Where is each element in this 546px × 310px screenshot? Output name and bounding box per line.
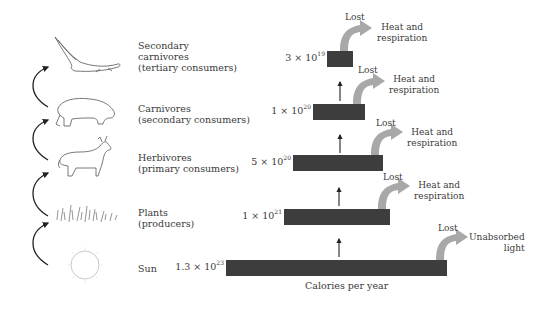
lost-label-3: Lost [383,172,403,183]
loss-line: Heat and [389,74,439,85]
value-exponent: 19 [317,50,325,57]
level-label-secondary-carnivores: Secondary carnivores (tertiary consumers… [138,40,237,73]
value-label-0: 3 × 1019 [285,52,325,63]
label-line: Secondary [138,40,237,51]
loss-destination-2: Heat and respiration [407,127,457,149]
value-exponent: 23 [216,259,224,266]
lion-icon [56,98,114,126]
value-base: 5 × 10 [251,156,283,167]
label-line: Carnivores [138,103,250,114]
lost-label-1: Lost [358,65,378,76]
value-label-1: 1 × 1020 [271,105,311,116]
label-line: (producers) [138,218,194,229]
value-label-2: 5 × 1020 [251,156,291,167]
loss-line: respiration [389,85,439,96]
value-label-3: 1 × 1021 [242,210,282,221]
value-label-4: 1.3 × 1023 [175,261,224,272]
lost-label-4: Lost [438,223,458,234]
label-line: Herbivores [138,152,239,163]
lost-label-0: Lost [345,12,365,23]
value-base: 3 × 10 [285,52,317,63]
energy-bar-sun [226,260,447,276]
loss-line: Unabsorbed [469,232,525,243]
level-label-herbivores: Herbivores (primary consumers) [138,152,239,174]
value-exponent: 21 [274,208,282,215]
label-line: (tertiary consumers) [138,62,237,73]
grass-icon [57,205,117,222]
loss-line: Heat and [377,22,427,33]
label-line: Plants [138,207,194,218]
loss-line: light [469,243,525,254]
lost-label-2: Lost [376,118,396,129]
value-base: 1 × 10 [242,210,274,221]
level-label-plants: Plants (producers) [138,207,194,229]
label-line: (primary consumers) [138,163,239,174]
loss-line: respiration [407,138,457,149]
axis-label: Calories per year [305,280,388,291]
loss-line: respiration [414,191,464,202]
label-line: Sun [138,263,157,274]
value-exponent: 20 [283,154,291,161]
loss-destination-3: Heat and respiration [414,180,464,202]
label-line: (secondary consumers) [138,114,250,125]
value-base: 1 × 10 [271,105,303,116]
deer-icon [59,136,111,176]
loss-destination-0: Heat and respiration [377,22,427,44]
sun-icon [67,247,103,283]
level-label-sun: Sun [138,263,157,274]
loss-line: Heat and [407,127,457,138]
eagle-icon [55,37,120,72]
loss-destination-1: Heat and respiration [389,74,439,96]
loss-line: respiration [377,33,427,44]
loss-destination-4: Unabsorbed light [469,232,525,254]
value-base: 1.3 × 10 [175,261,216,272]
level-label-carnivores: Carnivores (secondary consumers) [138,103,250,125]
energy-bar-secondary-carnivores [327,51,353,67]
energy-bar-carnivores [313,104,365,120]
energy-bar-herbivores [293,155,383,171]
label-line: carnivores [138,51,237,62]
loss-line: Heat and [414,180,464,191]
value-exponent: 20 [303,103,311,110]
energy-bar-plants [284,209,390,225]
trophic-curved-arrows [33,67,48,265]
